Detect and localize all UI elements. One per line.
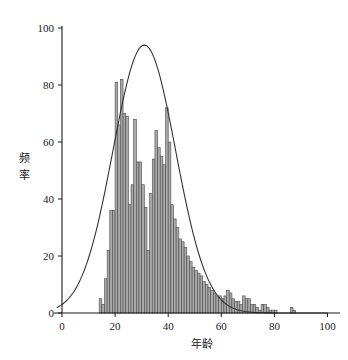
histogram-bar — [107, 250, 110, 313]
histogram-bar — [179, 239, 182, 313]
y-tick-label: 20 — [43, 250, 55, 262]
histogram-bar — [213, 293, 216, 313]
histogram-bar — [136, 162, 139, 313]
histogram-bar — [240, 304, 243, 313]
histogram-bar — [118, 125, 121, 313]
x-tick-label: 0 — [59, 320, 65, 332]
histogram-bar — [150, 193, 153, 313]
y-tick-label: 100 — [38, 22, 55, 34]
y-tick-label: 60 — [43, 136, 55, 148]
histogram-bar — [134, 119, 137, 313]
histogram-bar — [158, 148, 161, 313]
histogram-bar — [147, 250, 150, 313]
histogram-bar — [237, 302, 240, 313]
histogram-bar — [171, 205, 174, 313]
histogram-bar — [99, 299, 102, 313]
histogram-bar — [290, 307, 293, 313]
y-tick-label: 40 — [43, 193, 55, 205]
histogram-bar — [126, 116, 129, 313]
histogram-bar — [184, 247, 187, 313]
histogram-bar — [216, 296, 219, 313]
histogram-bar — [166, 108, 169, 313]
x-axis-title: 年龄 — [191, 337, 213, 351]
histogram-bar — [232, 299, 235, 313]
histogram-bar — [112, 210, 115, 313]
y-axis-title-char: 频 — [19, 151, 30, 165]
chart-canvas: 020406080100 020406080100 年龄 频率 — [0, 0, 348, 360]
histogram-bar — [266, 307, 269, 313]
histogram-bar — [104, 279, 107, 313]
x-tick-label: 60 — [216, 320, 228, 332]
histogram-bar — [208, 287, 211, 313]
y-axis-title-char: 率 — [19, 168, 30, 182]
histogram-bar — [203, 282, 206, 313]
histogram-bar — [123, 114, 126, 314]
histogram-bar — [144, 208, 147, 313]
histogram-bar — [211, 290, 214, 313]
histogram-figure: 020406080100 020406080100 年龄 频率 — [0, 0, 348, 360]
histogram-bar — [160, 156, 163, 313]
histogram-bar — [110, 210, 113, 313]
histogram-bar — [245, 299, 248, 313]
histogram-bar — [155, 131, 158, 313]
histogram-bar — [102, 304, 105, 313]
histogram-bar — [120, 79, 123, 313]
x-tick-label: 40 — [163, 320, 175, 332]
histogram-bar — [115, 82, 118, 313]
histogram-bar — [142, 185, 145, 313]
histogram-bar — [197, 273, 200, 313]
histogram-bar — [168, 142, 171, 313]
x-tick-label: 100 — [319, 320, 336, 332]
histogram-bar — [176, 228, 179, 314]
histogram-bar — [227, 290, 230, 313]
histogram-bar — [261, 304, 264, 313]
y-tick-label: 0 — [49, 307, 55, 319]
x-tick-label: 20 — [110, 320, 122, 332]
y-tick-label: 80 — [43, 79, 55, 91]
histogram-bar — [181, 242, 184, 313]
histogram-bar — [229, 293, 232, 313]
histogram-bar — [200, 276, 203, 313]
x-tick-label: 80 — [269, 320, 281, 332]
histogram-bar — [174, 219, 177, 313]
histogram-bar — [205, 285, 208, 314]
histogram-bar — [189, 262, 192, 313]
histogram-bar — [192, 267, 195, 313]
histogram-bar — [131, 185, 134, 313]
histogram-bar — [163, 165, 166, 313]
histogram-bar — [128, 205, 131, 313]
histogram-bar — [139, 162, 142, 313]
histogram-bar — [253, 304, 256, 313]
histogram-bar — [152, 159, 155, 313]
histogram-bar — [187, 256, 190, 313]
histogram-bar — [195, 270, 198, 313]
histogram-bar — [248, 299, 251, 313]
histogram-bar — [235, 302, 238, 313]
histogram-bar — [243, 296, 246, 313]
histogram-bar — [264, 304, 267, 313]
